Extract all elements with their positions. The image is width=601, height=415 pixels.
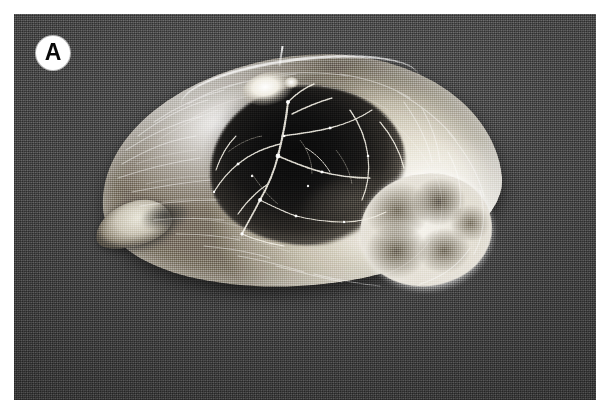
figure-caption (14, 402, 596, 414)
hilar-specular-dot (284, 77, 300, 90)
specimen (92, 44, 502, 294)
photograph-plate: A (14, 14, 596, 400)
figure-root: A (0, 0, 601, 415)
panel-label-text: A (45, 41, 62, 64)
panel-label-a: A (36, 36, 70, 70)
